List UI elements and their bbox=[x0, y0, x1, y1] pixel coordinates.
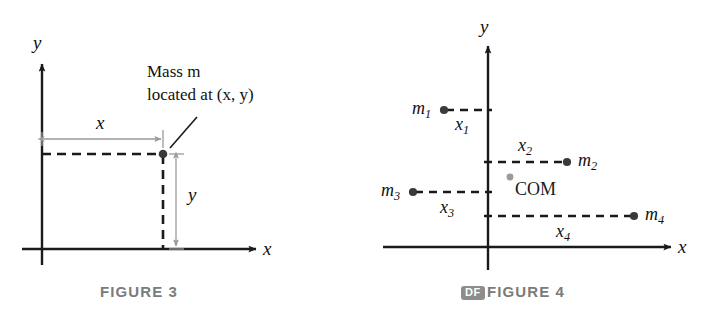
figure3-y-axis-label: y bbox=[33, 33, 41, 52]
figure4-distance-label-x2-base: x bbox=[518, 135, 526, 155]
figure4-com-label: COM bbox=[515, 180, 556, 198]
figure4-com-dot bbox=[507, 174, 514, 181]
figure4-df-badge: DF bbox=[461, 286, 485, 300]
figure4-mass-label-m1-sub: 1 bbox=[425, 107, 431, 121]
figure4-distance-label-x2: x2 bbox=[518, 136, 532, 157]
figure3-caption: FIGURE 3 bbox=[100, 283, 178, 300]
figure4-mass-label-m4-sub: 4 bbox=[658, 213, 664, 227]
figure4-distance-label-x4-sub: 4 bbox=[564, 230, 570, 244]
figure3-annotation-leader-line bbox=[170, 117, 197, 148]
figure4-mass-dot-m4 bbox=[630, 212, 638, 220]
figure4-x-axis-label: x bbox=[678, 237, 686, 256]
figures-vector-layer bbox=[0, 0, 704, 330]
figure4-mass-label-m1: m1 bbox=[412, 99, 431, 120]
figure4-mass-label-m2: m2 bbox=[578, 151, 597, 172]
figure4-distance-label-x1-base: x bbox=[455, 114, 463, 134]
figure4-distance-label-x3-sub: 3 bbox=[448, 206, 454, 220]
figure4-mass-dot-m2 bbox=[563, 158, 571, 166]
figure4-distance-label-x2-sub: 2 bbox=[526, 144, 532, 158]
figure3-mass-point-dot bbox=[159, 150, 168, 159]
figure4-caption: FIGURE 4 bbox=[487, 283, 565, 300]
figure4-mass-dot-m1 bbox=[440, 106, 448, 114]
figure4-mass-label-m2-base: m bbox=[578, 150, 591, 170]
figure3-annotation-line-2-text: located at (x, y) bbox=[147, 85, 254, 104]
figure4-mass-label-m4: m4 bbox=[645, 205, 664, 226]
figure4-graphics bbox=[383, 46, 671, 270]
figure3-annotation-line-1: Mass m bbox=[147, 62, 254, 82]
figure4-mass-label-m3-base: m bbox=[381, 180, 394, 200]
figure3-annotation-line-1-text: Mass m bbox=[147, 62, 200, 81]
figure4-distance-label-x3: x3 bbox=[440, 198, 454, 219]
figure-page: y x x y Mass m located at (x, y) FIGURE … bbox=[0, 0, 704, 330]
figure4-mass-dot-m3 bbox=[409, 188, 417, 196]
figure4-mass-label-m3-sub: 3 bbox=[394, 189, 400, 203]
figure4-distance-label-x4: x4 bbox=[556, 222, 570, 243]
figure4-distance-label-x1-sub: 1 bbox=[463, 123, 469, 137]
figure3-annotation: Mass m located at (x, y) bbox=[147, 62, 254, 102]
figure4-mass-label-m3: m3 bbox=[381, 181, 400, 202]
figure4-mass-label-m2-sub: 2 bbox=[591, 159, 597, 173]
figure4-mass-label-m1-base: m bbox=[412, 98, 425, 118]
figure3-y-distance-label: y bbox=[188, 185, 196, 204]
figure4-distance-label-x3-base: x bbox=[440, 197, 448, 217]
figure3-annotation-line-2: located at (x, y) bbox=[147, 85, 254, 105]
figure4-distance-label-x4-base: x bbox=[556, 221, 564, 241]
figure4-y-axis-label: y bbox=[480, 17, 488, 36]
figure4-distance-label-x1: x1 bbox=[455, 115, 469, 136]
figure3-x-distance-label: x bbox=[96, 113, 104, 132]
figure3-x-axis-label: x bbox=[263, 239, 271, 258]
figure4-mass-label-m4-base: m bbox=[645, 204, 658, 224]
